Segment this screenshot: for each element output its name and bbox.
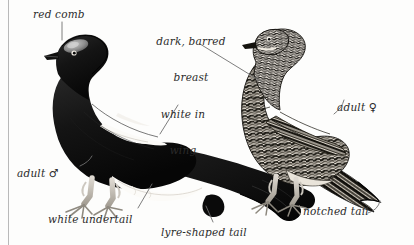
label-dark-barred-breast-line1: dark, barred <box>148 35 234 47</box>
label-adult-female-text: adult <box>337 101 369 113</box>
label-adult-male-text: adult <box>17 167 49 179</box>
label-white-undertail: white undertail <box>48 213 133 225</box>
female-bill <box>242 42 257 49</box>
label-notched-tail: notched tail <box>303 205 369 217</box>
illustration-plate: red comb dark, barred breast white in wi… <box>0 0 414 245</box>
label-red-comb: red comb <box>33 8 85 20</box>
label-white-in-wing: white in wing <box>152 84 214 180</box>
label-lyre-shaped-tail: lyre-shaped tail <box>161 226 247 238</box>
label-dark-barred-breast-line2: breast <box>148 71 234 83</box>
label-adult-female: adult ♀ <box>337 101 377 114</box>
female-sex-symbol: ♀ <box>369 101 377 114</box>
label-white-in-wing-line1: white in <box>152 108 214 120</box>
label-adult-male: adult ♂ <box>17 167 59 180</box>
male-sex-symbol: ♂ <box>49 167 59 180</box>
label-white-in-wing-line2: wing <box>152 144 214 156</box>
